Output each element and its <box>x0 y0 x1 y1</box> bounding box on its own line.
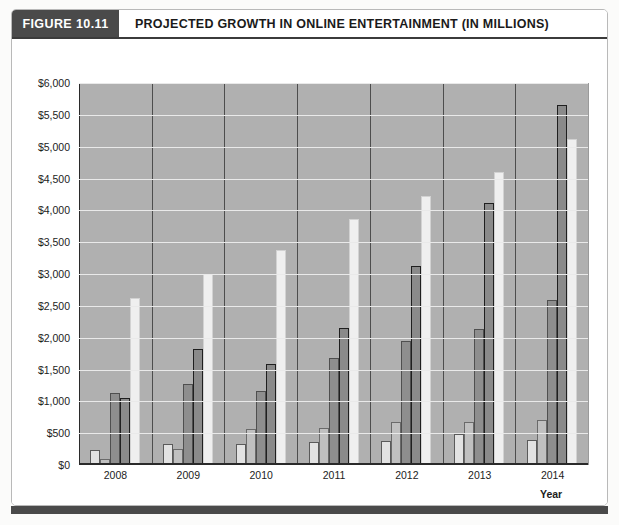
bar-online-video-games-2014 <box>547 300 557 465</box>
bar-online-video-games-2012 <box>401 341 411 465</box>
figure-card: FIGURE 10.11 PROJECTED GROWTH IN ONLINE … <box>11 9 608 506</box>
x-axis-title: Year <box>540 488 562 500</box>
grid-line <box>79 433 588 434</box>
chart-body: $0$500$1,000$1,500$2,000$2,500$3,000$3,5… <box>12 39 607 506</box>
x-axis-labels: 2008200920102011201220132014 <box>79 469 589 485</box>
grid-line <box>79 83 588 84</box>
y-axis-tick-label: $2,500 <box>38 300 70 312</box>
bar-internet-radio-2012 <box>391 422 401 465</box>
bar-online-tv-2010 <box>236 444 246 465</box>
x-axis-tick-label: 2008 <box>79 469 152 485</box>
bar-online-music-2012 <box>421 196 431 465</box>
bar-online-video-games-2009 <box>183 384 193 465</box>
grid-line <box>79 242 588 243</box>
x-axis-tick-label: 2014 <box>516 469 589 485</box>
bar-online-video-games-2011 <box>329 358 339 465</box>
x-axis-line <box>79 463 588 465</box>
grid-line <box>79 210 588 211</box>
y-axis-tick-label: $4,500 <box>38 173 70 185</box>
bar-online-music-2013 <box>494 172 504 465</box>
bar-online-tv-2012 <box>381 441 391 465</box>
figure-page: FIGURE 10.11 PROJECTED GROWTH IN ONLINE … <box>0 0 619 525</box>
grid-line <box>79 274 588 275</box>
y-axis-tick-label: $2,000 <box>38 332 70 344</box>
x-axis-tick-label: 2013 <box>443 469 516 485</box>
figure-title: PROJECTED GROWTH IN ONLINE ENTERTAINMENT… <box>119 10 607 37</box>
y-axis-tick-label: $3,500 <box>38 236 70 248</box>
y-axis-tick-label: $1,500 <box>38 364 70 376</box>
grid-line <box>79 306 588 307</box>
bar-internet-radio-2014 <box>537 420 547 465</box>
bar-online-video-2010 <box>266 364 276 465</box>
bar-online-video-games-2013 <box>474 329 484 465</box>
x-axis-tick-label: 2010 <box>225 469 298 485</box>
bar-online-music-2008 <box>130 298 140 465</box>
bar-online-music-2011 <box>349 219 359 465</box>
figure-bottom-rule <box>11 506 608 514</box>
plot-area <box>79 83 589 465</box>
grid-line <box>79 370 588 371</box>
bar-online-video-2012 <box>411 266 421 465</box>
bar-online-video-2009 <box>193 349 203 466</box>
y-axis-tick-label: $5,000 <box>38 141 70 153</box>
grid-line <box>79 338 588 339</box>
bar-online-video-2011 <box>339 328 349 465</box>
y-axis-tick-label: $6,000 <box>38 77 70 89</box>
bar-online-video-games-2008 <box>110 393 120 465</box>
y-axis-tick-label: $500 <box>47 427 70 439</box>
bar-online-music-2014 <box>567 139 577 465</box>
grid-line <box>79 401 588 402</box>
y-axis-tick-label: $0 <box>58 459 70 471</box>
y-axis-tick-label: $3,000 <box>38 268 70 280</box>
bar-online-tv-2009 <box>163 444 173 465</box>
bar-online-video-2008 <box>120 398 130 465</box>
bar-online-tv-2013 <box>454 434 464 465</box>
y-axis-labels: $0$500$1,000$1,500$2,000$2,500$3,000$3,5… <box>12 83 75 465</box>
x-axis-tick-label: 2009 <box>152 469 225 485</box>
grid-line <box>79 179 588 180</box>
y-axis-tick-label: $1,000 <box>38 395 70 407</box>
x-axis-tick-label: 2012 <box>370 469 443 485</box>
y-axis-tick-label: $5,500 <box>38 109 70 121</box>
bar-online-video-2014 <box>557 105 567 465</box>
grid-line <box>79 147 588 148</box>
plot-background <box>79 83 589 465</box>
x-axis-tick-label: 2011 <box>298 469 371 485</box>
figure-number-tag: FIGURE 10.11 <box>12 10 119 37</box>
grid-line <box>79 115 588 116</box>
bar-online-tv-2014 <box>527 440 537 465</box>
bar-internet-radio-2013 <box>464 422 474 465</box>
y-axis-tick-label: $4,000 <box>38 204 70 216</box>
figure-header: FIGURE 10.11 PROJECTED GROWTH IN ONLINE … <box>12 10 607 39</box>
bar-internet-radio-2010 <box>246 429 256 465</box>
bar-online-tv-2011 <box>309 442 319 465</box>
